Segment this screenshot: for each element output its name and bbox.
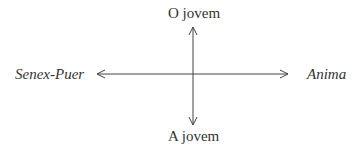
top-label: O jovem <box>168 6 220 21</box>
right-label: Anima <box>307 67 346 82</box>
left-label: Senex-Puer <box>15 67 84 82</box>
bottom-label: A jovem <box>168 129 219 144</box>
